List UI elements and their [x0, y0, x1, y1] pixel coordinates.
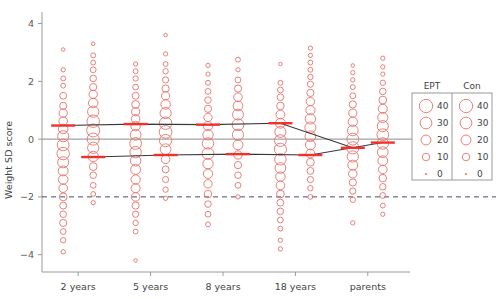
y-tick-label: 0: [28, 134, 34, 145]
legend-size-label: 40: [437, 101, 449, 111]
legend-size-label: 20: [437, 135, 449, 145]
legend-size-label: 10: [477, 152, 489, 162]
y-tick-label: −4: [20, 249, 34, 260]
legend-size-marker: [425, 173, 427, 175]
x-axis-label-2-years: 2 years: [61, 281, 96, 292]
x-axis-label-parents: parents: [350, 281, 386, 292]
weight-sd-score-scatter-chart: Weight SD score 420−2−4 2 years5 years8 …: [0, 0, 502, 299]
legend-header-ept: EPT: [424, 81, 441, 91]
chart-root: Weight SD score 420−2−4 2 years5 years8 …: [0, 0, 502, 299]
x-axis-label-8-years: 8 years: [205, 281, 240, 292]
x-axis-label-18-years: 18 years: [275, 281, 316, 292]
y-axis-title: Weight SD score: [3, 121, 14, 199]
legend-header-con: Con: [463, 81, 481, 91]
legend-size-label: 30: [437, 118, 449, 128]
legend[interactable]: EPTCon404030302020101000: [412, 81, 492, 180]
legend-size-label: 10: [437, 152, 449, 162]
y-tick-label: 2: [28, 76, 34, 87]
legend-size-marker: [465, 173, 467, 175]
legend-size-label: 30: [477, 118, 489, 128]
legend-size-label: 20: [477, 135, 489, 145]
y-tick-label: 4: [28, 18, 34, 29]
legend-size-label: 0: [477, 169, 483, 179]
legend-size-label: 0: [437, 169, 443, 179]
legend-size-label: 40: [477, 101, 489, 111]
x-axis-label-5-years: 5 years: [133, 281, 168, 292]
y-tick-label: −2: [20, 191, 34, 202]
